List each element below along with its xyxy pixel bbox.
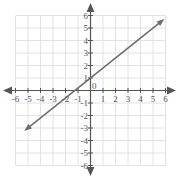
x-axis-tick-label: -3 (49, 95, 57, 104)
x-axis-tick-label: 4 (138, 95, 143, 104)
y-axis-tick-label: -2 (81, 111, 89, 120)
axes (3, 3, 176, 176)
x-axis-tick-label: -5 (24, 95, 32, 104)
x-axis-tick-label: -6 (12, 95, 20, 104)
y-axis-tick-label: 1 (84, 74, 89, 83)
y-axis-tick-label: -6 (81, 161, 89, 170)
arrow-right-icon (167, 87, 176, 95)
x-axis-tick-label: -2 (62, 95, 70, 104)
x-axis-tick-label: 3 (126, 95, 131, 104)
y-axis-tick-label: 6 (84, 11, 89, 20)
y-axis-tick-label: 2 (84, 61, 89, 70)
graph-canvas (0, 0, 179, 179)
x-axis-tick-label: 2 (113, 95, 118, 104)
x-axis-tick-label: 5 (151, 95, 156, 104)
arrow-left-icon (3, 87, 12, 95)
y-axis-tick-label: -1 (81, 99, 89, 108)
coordinate-plane-graph: -6-5-4-3-2-1123456 654321-1-2-3-4-5-6 0 (0, 0, 179, 179)
y-axis-tick-label: 5 (84, 24, 89, 33)
y-axis-tick-label: -5 (81, 149, 89, 158)
x-axis-tick-label: 1 (101, 95, 106, 104)
origin-label: 0 (92, 82, 97, 91)
y-axis-tick-label: 4 (84, 36, 89, 45)
y-axis-tick-label: 3 (84, 49, 89, 58)
y-axis-tick-label: -3 (81, 124, 89, 133)
plotted-line-series (24, 19, 164, 131)
x-axis-tick-label: 6 (163, 95, 168, 104)
y-axis-tick-label: -4 (81, 136, 89, 145)
x-axis-tick-label: -4 (37, 95, 45, 104)
